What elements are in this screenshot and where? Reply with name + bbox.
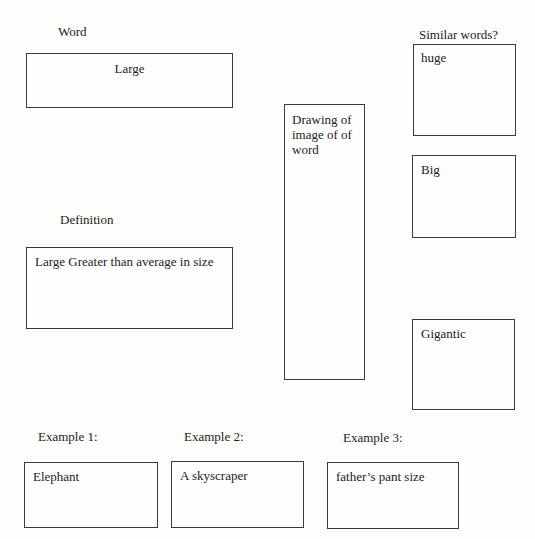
example-3-box[interactable]: father’s pant size: [327, 462, 459, 529]
definition-value: Large Greater than average in size: [35, 254, 226, 269]
similar-word-box-1[interactable]: huge: [413, 44, 516, 136]
word-value: Large: [27, 61, 232, 76]
word-box[interactable]: Large: [26, 53, 233, 108]
drawing-value: Drawing of image of of word: [292, 112, 360, 157]
example-2-box[interactable]: A skyscraper: [171, 461, 304, 528]
example-2-value: A skyscraper: [180, 468, 297, 483]
example-2-label: Example 2:: [184, 429, 244, 444]
similar-word-box-2[interactable]: Big: [412, 155, 516, 238]
example-1-label: Example 1:: [38, 429, 98, 444]
example-1-value: Elephant: [33, 469, 151, 484]
definition-box[interactable]: Large Greater than average in size: [26, 247, 233, 329]
similar-word-box-3[interactable]: Gigantic: [412, 319, 515, 410]
example-3-label: Example 3:: [343, 430, 403, 445]
example-1-box[interactable]: Elephant: [24, 462, 158, 528]
word-label: Word: [58, 24, 87, 39]
drawing-box[interactable]: Drawing of image of of word: [284, 104, 365, 380]
similar-word-2: Big: [421, 162, 509, 177]
similar-words-label: Similar words?: [419, 27, 498, 42]
example-3-value: father’s pant size: [336, 469, 452, 484]
similar-word-1: huge: [421, 50, 509, 65]
definition-label: Definition: [60, 212, 113, 227]
similar-word-3: Gigantic: [421, 326, 508, 341]
